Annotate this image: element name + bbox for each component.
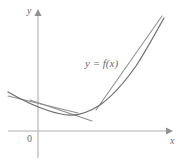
tangent-segment-minimum bbox=[30, 100, 92, 121]
x-axis-label: x bbox=[170, 136, 174, 146]
origin-label: 0 bbox=[27, 134, 32, 144]
function-label: y = f(x) bbox=[85, 58, 118, 69]
figure-container: y x 0 y = f(x) bbox=[0, 0, 193, 166]
x-axis-arrowhead bbox=[166, 128, 173, 135]
y-axis-label: y bbox=[27, 6, 31, 16]
y-axis-arrowhead bbox=[35, 9, 42, 16]
